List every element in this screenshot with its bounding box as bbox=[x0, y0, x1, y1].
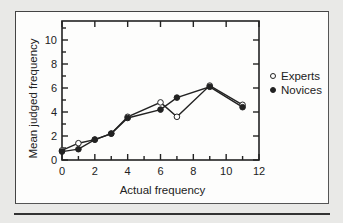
series-line-novices bbox=[62, 87, 243, 152]
x-tick-label: 2 bbox=[92, 165, 98, 177]
y-tick-label: 0 bbox=[51, 154, 57, 166]
legend-label-novices: Novices bbox=[281, 84, 322, 96]
data-point-experts bbox=[158, 100, 164, 106]
y-tick-label: 10 bbox=[45, 34, 57, 46]
x-tick-label: 8 bbox=[190, 165, 196, 177]
data-point-novices bbox=[76, 146, 82, 152]
data-point-experts bbox=[76, 140, 82, 146]
data-point-novices bbox=[158, 107, 164, 113]
x-tick-label: 6 bbox=[157, 165, 163, 177]
data-point-experts bbox=[174, 114, 180, 120]
data-point-novices bbox=[108, 131, 114, 137]
legend-marker-novices bbox=[271, 88, 276, 93]
data-point-novices bbox=[92, 137, 98, 143]
x-tick-label: 0 bbox=[59, 165, 65, 177]
y-tick-label: 8 bbox=[51, 58, 57, 70]
y-tick-label: 2 bbox=[51, 130, 57, 142]
data-point-novices bbox=[125, 115, 131, 121]
x-tick-label: 12 bbox=[253, 165, 265, 177]
legend-label-experts: Experts bbox=[281, 70, 320, 82]
y-tick-label: 6 bbox=[51, 82, 57, 94]
x-tick-label: 10 bbox=[220, 165, 232, 177]
y-axis-title: Mean judged frequency bbox=[27, 38, 39, 158]
plot-area bbox=[62, 21, 259, 160]
y-tick-label: 4 bbox=[51, 106, 57, 118]
data-point-novices bbox=[59, 149, 65, 155]
data-point-novices bbox=[207, 84, 213, 90]
line-chart: 0246810120246810Actual frequencyMean jud… bbox=[0, 0, 343, 223]
data-point-novices bbox=[240, 104, 246, 110]
series-line-experts bbox=[62, 86, 243, 151]
data-point-novices bbox=[174, 95, 180, 101]
x-axis-title: Actual frequency bbox=[120, 184, 206, 196]
legend-marker-experts bbox=[271, 74, 276, 79]
x-tick-label: 4 bbox=[125, 165, 131, 177]
